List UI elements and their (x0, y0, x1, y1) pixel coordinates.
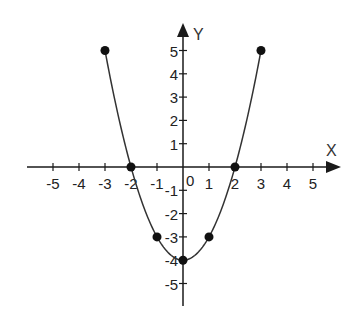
origin-label: 0 (186, 172, 194, 189)
x-tick-label: -5 (46, 175, 59, 192)
y-axis-arrow-icon (177, 23, 189, 37)
data-point (231, 163, 240, 172)
data-point (257, 46, 266, 55)
x-axis-arrow-icon (326, 161, 341, 173)
y-tick-label: -5 (165, 276, 178, 293)
data-point (101, 46, 110, 55)
y-tick-label: 2 (170, 112, 178, 129)
y-tick-label: 3 (170, 89, 178, 106)
parabola-chart: -5-4-3-2-11234554321-1-2-3-4-5 X Y 0 (0, 0, 364, 323)
x-tick-label: -3 (98, 175, 111, 192)
x-tick-label: -4 (72, 175, 85, 192)
y-tick-label: 1 (170, 136, 178, 153)
y-tick-label: -2 (165, 206, 178, 223)
y-tick-label: 5 (170, 43, 178, 60)
x-tick-label: 3 (257, 175, 265, 192)
y-axis-label: Y (193, 26, 204, 43)
x-tick-label: 1 (205, 175, 213, 192)
data-point (179, 256, 188, 265)
data-point (153, 232, 162, 241)
x-tick-label: 5 (309, 175, 317, 192)
y-tick-label: -3 (165, 229, 178, 246)
x-axis-label: X (326, 142, 337, 159)
x-tick-label: 4 (283, 175, 291, 192)
data-point (205, 232, 214, 241)
y-tick-label: 4 (170, 66, 178, 83)
y-tick-label: -1 (165, 182, 178, 199)
data-point (127, 163, 136, 172)
x-tick-label: -1 (150, 175, 163, 192)
